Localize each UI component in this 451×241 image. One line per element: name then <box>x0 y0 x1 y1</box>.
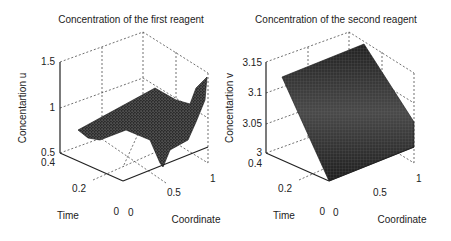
left-ttick-0.2: 0.2 <box>72 183 86 194</box>
right-ctick-0.5: 0.5 <box>373 187 387 198</box>
left-ctick-1: 1 <box>210 173 216 184</box>
right-ztick-3: 3 <box>256 147 262 158</box>
right-ctick-0: 0 <box>333 207 339 218</box>
right-ttick-0.4: 0.4 <box>248 158 262 169</box>
right-surface-plot: Concentration of the second reagent 3.15… <box>224 14 427 225</box>
right-title: Concentration of the second reagent <box>255 14 417 25</box>
left-title: Concentration of the first reagent <box>58 14 204 25</box>
right-ztick-3.15: 3.15 <box>243 57 263 68</box>
left-ttick-0: 0 <box>113 206 119 217</box>
right-xlabel: Coordinate <box>378 214 427 225</box>
left-ctick-0.5: 0.5 <box>167 187 181 198</box>
left-surface-plot: Concentration of the first reagent 1.5 1… <box>17 14 221 225</box>
left-ylabel: Time <box>57 210 79 221</box>
right-ttick-0: 0 <box>319 206 325 217</box>
left-ztick-1.5: 1.5 <box>41 56 55 67</box>
left-zlabel: Concentartion u <box>17 73 28 144</box>
left-xlabel: Coordinate <box>172 214 221 225</box>
right-ztick-3.1: 3.1 <box>248 87 262 98</box>
right-ylabel: Time <box>273 210 295 221</box>
right-ttick-0.2: 0.2 <box>278 183 292 194</box>
left-ctick-0: 0 <box>128 207 134 218</box>
left-ttick-0.4: 0.4 <box>41 157 55 168</box>
right-ctick-1: 1 <box>416 173 422 184</box>
figure: Concentration of the first reagent 1.5 1… <box>0 0 451 241</box>
right-ztick-3.05: 3.05 <box>243 118 263 129</box>
left-ztick-1: 1 <box>49 102 55 113</box>
right-zlabel: Concentartion v <box>224 73 235 143</box>
